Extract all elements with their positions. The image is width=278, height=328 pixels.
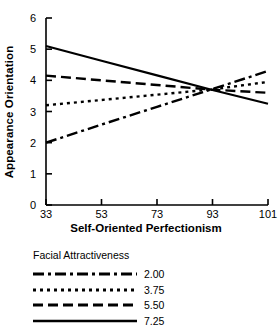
legend-swatch-icon	[33, 315, 137, 327]
axis-lines	[46, 18, 268, 205]
plot-area	[0, 0, 278, 215]
legend-title: Facial Attractiveness	[33, 249, 129, 261]
legend-label: 7.25	[144, 315, 164, 327]
x-axis-title: Self-Oriented Perfectionism	[18, 222, 274, 234]
data-line-7.25	[46, 46, 268, 104]
data-line-2.00	[46, 71, 268, 143]
legend-item-7.25[interactable]: 7.25	[33, 313, 164, 328]
data-line-5.50	[46, 76, 268, 93]
chart-figure: Appearance Orientation 0123456 335373931…	[0, 0, 278, 328]
data-lines	[46, 46, 268, 143]
legend-item-2.00[interactable]: 2.00	[33, 266, 164, 282]
legend-swatch-icon	[33, 268, 137, 280]
legend-label: 2.00	[144, 268, 164, 280]
legend-item-3.75[interactable]: 3.75	[33, 282, 164, 298]
legend-label: 5.50	[144, 299, 164, 311]
legend-swatch-icon	[33, 299, 137, 311]
legend-swatch-icon	[33, 284, 137, 296]
legend-item-5.50[interactable]: 5.50	[33, 297, 164, 313]
legend-label: 3.75	[144, 284, 164, 296]
